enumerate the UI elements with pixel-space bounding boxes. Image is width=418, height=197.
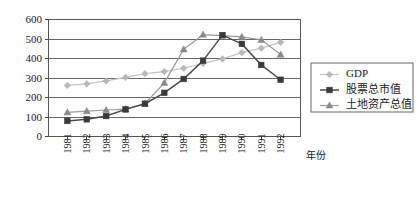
- x-tick-label-1989: 1989: [217, 134, 228, 154]
- legend-label: 股票总市值: [346, 82, 401, 95]
- y-tick-label-600: 600: [26, 13, 43, 25]
- y-tick-label-300: 300: [26, 72, 43, 84]
- line-chart: 0100200300400500600 19811982198319841985…: [0, 0, 418, 197]
- data-point-1986-224: [162, 90, 168, 96]
- y-tick-label-0: 0: [37, 130, 43, 142]
- chart-figure: 0100200300400500600 19811982198319841985…: [0, 0, 418, 197]
- data-point-1983-105: [103, 113, 109, 119]
- data-point-1982-88: [84, 117, 90, 123]
- data-point-1985-168: [142, 101, 148, 107]
- x-tick-label-1988: 1988: [198, 134, 209, 154]
- x-tick-label-1981: 1981: [62, 134, 73, 154]
- data-point-1987-295: [181, 76, 187, 82]
- data-point-1991-367: [258, 62, 264, 68]
- data-point-1992-291: [278, 77, 284, 83]
- x-tick-label-1985: 1985: [140, 134, 151, 154]
- data-point-1984-139: [123, 107, 129, 113]
- x-tick-label-1992: 1992: [275, 134, 286, 154]
- x-tick-label-1983: 1983: [101, 134, 112, 154]
- chart-legend: GDP股票总市值土地资产总值: [311, 63, 413, 112]
- data-point-1981-80: [65, 118, 71, 124]
- data-point-1990-475: [239, 41, 245, 47]
- data-point-1988-389: [200, 58, 206, 64]
- x-tick-label-1986: 1986: [159, 134, 170, 154]
- x-tick-label-1987: 1987: [178, 134, 189, 154]
- legend-marker-square: [327, 87, 333, 93]
- y-tick-label-400: 400: [26, 52, 43, 64]
- y-tick-label-500: 500: [26, 33, 43, 45]
- legend-label: 土地资产总值: [346, 97, 412, 110]
- data-point-1989-520: [220, 32, 226, 38]
- x-tick-label-1984: 1984: [120, 134, 131, 154]
- x-tick-label-1991: 1991: [256, 134, 267, 154]
- x-tick-label-1990: 1990: [236, 134, 247, 154]
- legend-label: GDP: [346, 67, 368, 79]
- x-tick-label-1982: 1982: [81, 134, 92, 154]
- y-tick-label-100: 100: [26, 111, 43, 123]
- y-tick-label-200: 200: [26, 91, 43, 103]
- x-axis-title: 年份: [306, 149, 326, 161]
